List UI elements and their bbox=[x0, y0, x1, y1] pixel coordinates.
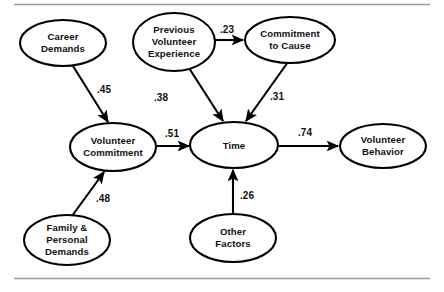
node-commitment-to-cause: Commitment to Cause bbox=[245, 17, 335, 63]
previous-volunteer-experience-label-line2: Volunteer bbox=[152, 36, 197, 47]
time-label: Time bbox=[223, 140, 246, 151]
edge-previous-experience-to-time bbox=[189, 68, 223, 121]
diagram-canvas: Career Demands Previous Volunteer Experi… bbox=[0, 0, 444, 292]
volunteer-behavior-label-line2: Behavior bbox=[362, 146, 404, 157]
volunteer-commitment-label-line2: Commitment bbox=[83, 147, 143, 158]
family-personal-demands-label-line1: Family & bbox=[47, 222, 88, 233]
career-demands-label-line2: Demands bbox=[41, 43, 85, 54]
previous-volunteer-experience-label-line1: Previous bbox=[153, 24, 194, 35]
path-label-other-factors-to-time: .26 bbox=[240, 190, 254, 201]
node-previous-volunteer-experience: Previous Volunteer Experience bbox=[133, 13, 215, 71]
node-other-factors: Other Factors bbox=[190, 214, 276, 262]
node-volunteer-commitment: Volunteer Commitment bbox=[70, 123, 156, 171]
path-label-commitment-cause-to-time: .31 bbox=[270, 91, 284, 102]
previous-volunteer-experience-label-line3: Experience bbox=[148, 48, 200, 59]
path-label-time-to-volunteer-behavior: .74 bbox=[298, 127, 312, 138]
career-demands-label-line1: Career bbox=[47, 31, 78, 42]
path-diagram-figure: Career Demands Previous Volunteer Experi… bbox=[0, 0, 444, 292]
path-label-family-to-volunteer-commitment: .48 bbox=[96, 193, 110, 204]
other-factors-label-line2: Factors bbox=[215, 238, 250, 249]
commitment-to-cause-label-line2: to Cause bbox=[269, 40, 310, 51]
node-family-personal-demands: Family & Personal Demands bbox=[24, 215, 110, 265]
node-career-demands: Career Demands bbox=[20, 20, 106, 66]
node-volunteer-behavior: Volunteer Behavior bbox=[340, 124, 426, 168]
volunteer-behavior-label-line1: Volunteer bbox=[361, 134, 406, 145]
family-personal-demands-label-line3: Demands bbox=[45, 246, 89, 257]
node-time: Time bbox=[190, 122, 278, 168]
path-label-volunteer-commitment-to-time: .51 bbox=[165, 128, 179, 139]
other-factors-label-line1: Other bbox=[220, 226, 246, 237]
volunteer-commitment-label-line1: Volunteer bbox=[91, 135, 136, 146]
path-label-career-to-commitment: .45 bbox=[97, 84, 111, 95]
path-label-prev-experience-to-time: .38 bbox=[154, 92, 168, 103]
commitment-to-cause-label-line1: Commitment bbox=[260, 28, 320, 39]
path-label-prev-experience-to-commitment-cause: .23 bbox=[220, 24, 234, 35]
family-personal-demands-label-line2: Personal bbox=[46, 234, 87, 245]
